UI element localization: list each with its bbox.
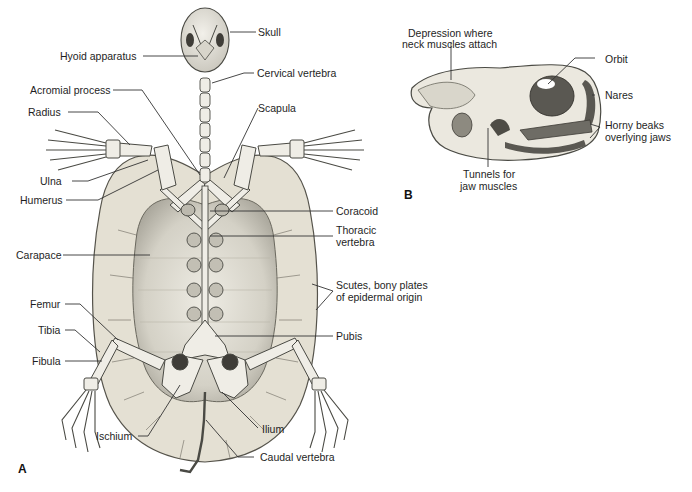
label-femur: Femur — [30, 298, 60, 310]
label-hyoid-apparatus: Hyoid apparatus — [60, 50, 136, 62]
label-tunnels-line1: Tunnels for — [463, 168, 515, 180]
label-ischium: Ischium — [96, 430, 132, 442]
panel-letter-b: B — [404, 188, 413, 202]
label-tibia: Tibia — [38, 324, 60, 336]
label-humerus: Humerus — [20, 194, 63, 206]
skull-dorsal — [181, 8, 229, 72]
label-coracoid: Coracoid — [336, 205, 378, 217]
label-orbit: Orbit — [605, 53, 628, 65]
label-cervical-vertebra: Cervical vertebra — [257, 67, 336, 79]
label-acromial-process: Acromial process — [30, 84, 111, 96]
label-thoracic-line2: vertebra — [336, 236, 375, 248]
label-pubis: Pubis — [336, 330, 362, 342]
label-radius: Radius — [28, 106, 61, 118]
label-depression-line2: neck muscles attach — [402, 38, 497, 50]
label-ilium: Ilium — [262, 423, 284, 435]
label-nares: Nares — [605, 89, 633, 101]
label-skull: Skull — [258, 26, 281, 38]
label-scapula: Scapula — [258, 102, 296, 114]
label-caudal-vertebra: Caudal vertebra — [260, 451, 335, 463]
label-horny-beaks-line1: Horny beaks — [605, 119, 664, 131]
label-tunnels-line2: jaw muscles — [460, 180, 517, 192]
label-scutes-line2: of epidermal origin — [336, 291, 422, 303]
label-carapace: Carapace — [16, 249, 62, 261]
label-fibula: Fibula — [32, 355, 61, 367]
turtle-skeleton-figure: Skull Hyoid apparatus Cervical vertebra … — [0, 0, 692, 492]
label-horny-beaks-line2: overlying jaws — [605, 131, 671, 143]
label-thoracic-line1: Thoracic — [336, 224, 376, 236]
skull-lateral — [411, 65, 600, 161]
panel-letter-a: A — [18, 462, 27, 476]
label-scutes-line1: Scutes, bony plates — [336, 279, 428, 291]
label-ulna: Ulna — [40, 175, 62, 187]
